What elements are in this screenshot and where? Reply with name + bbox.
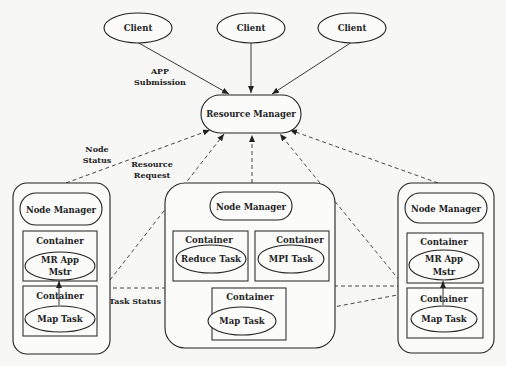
svg-text:Client: Client xyxy=(237,23,266,33)
label-status: Status xyxy=(83,155,112,165)
label-app: APP xyxy=(150,66,169,76)
svg-text:Map Task: Map Task xyxy=(37,314,84,324)
label-task-status: Task Status xyxy=(109,296,161,306)
svg-text:MR App: MR App xyxy=(41,255,79,265)
svg-text:Container: Container xyxy=(36,236,84,246)
svg-text:Container: Container xyxy=(420,237,468,247)
label-node: Node xyxy=(85,144,108,154)
client-2: Client xyxy=(217,13,285,43)
svg-text:Map Task: Map Task xyxy=(421,314,468,324)
svg-text:MPI Task: MPI Task xyxy=(269,254,315,264)
svg-text:Node Manager: Node Manager xyxy=(216,202,287,212)
node-right: Node Manager Container MR App Mstr Conta… xyxy=(398,183,494,353)
label-submission: Submission xyxy=(134,77,186,87)
svg-text:MR App: MR App xyxy=(425,254,463,264)
edge-client3-rm xyxy=(272,42,352,94)
svg-text:Container: Container xyxy=(420,294,468,304)
svg-text:Container: Container xyxy=(36,291,84,301)
svg-text:Mstr: Mstr xyxy=(49,267,72,277)
label-resource: Resource xyxy=(131,159,173,169)
svg-text:Container: Container xyxy=(226,292,274,302)
svg-text:Node Manager: Node Manager xyxy=(411,204,482,214)
svg-text:Reduce Task: Reduce Task xyxy=(181,254,242,264)
node-center: Node Manager Container Reduce Task Conta… xyxy=(165,183,335,348)
client-1: Client xyxy=(104,13,172,43)
svg-text:Client: Client xyxy=(338,23,367,33)
client-3: Client xyxy=(318,13,386,43)
svg-text:Map Task: Map Task xyxy=(219,316,266,326)
node-left: Node Manager Container MR App Mstr Conta… xyxy=(13,183,110,354)
resource-manager: Resource Manager xyxy=(201,95,301,133)
svg-text:Node Manager: Node Manager xyxy=(26,205,97,215)
svg-text:Mstr: Mstr xyxy=(433,267,456,277)
svg-text:Resource Manager: Resource Manager xyxy=(206,109,296,119)
label-request: Request xyxy=(134,170,171,180)
yarn-diagram: Client Client Client APP Submission Node… xyxy=(0,0,506,366)
svg-text:Container: Container xyxy=(185,235,233,245)
edge-node-status-right xyxy=(290,130,438,183)
svg-text:Client: Client xyxy=(124,23,153,33)
svg-text:Container: Container xyxy=(276,235,324,245)
